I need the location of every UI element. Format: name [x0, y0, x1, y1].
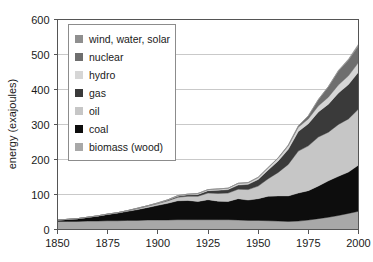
legend-item[interactable]: wind, water, solar	[75, 30, 171, 48]
x-tick-label: 1975	[296, 237, 320, 249]
x-tick-label: 1925	[196, 237, 220, 249]
legend-label-oil: oil	[89, 106, 100, 117]
legend-swatch-nuclear	[75, 53, 83, 61]
chart-legend: wind, water, solar nuclear hydro gas oil…	[68, 24, 176, 161]
legend-swatch-biomass	[75, 143, 83, 151]
y-tick-label: 500	[31, 49, 49, 61]
legend-item[interactable]: nuclear	[75, 48, 171, 66]
x-tick-label: 1900	[146, 237, 170, 249]
legend-item[interactable]: hydro	[75, 66, 171, 84]
legend-swatch-gas	[75, 89, 83, 97]
legend-label-biomass: biomass (wood)	[89, 142, 163, 153]
legend-label-nuclear: nuclear	[89, 52, 123, 63]
x-axis-ticks	[58, 230, 359, 234]
legend-label-hydro: hydro	[89, 70, 115, 81]
legend-swatch-wind-water-solar	[75, 35, 83, 43]
legend-label-gas: gas	[89, 88, 106, 99]
y-tick-label: 0	[43, 224, 49, 236]
chart-figure: 0100200300400500600 18501875190019251950…	[0, 0, 373, 262]
energy-stacked-area-chart: 0100200300400500600 18501875190019251950…	[0, 0, 373, 262]
legend-swatch-coal	[75, 125, 83, 133]
x-tick-label: 1875	[95, 237, 119, 249]
x-tick-label: 2000	[346, 237, 370, 249]
legend-item[interactable]: gas	[75, 84, 171, 102]
legend-swatch-oil	[75, 107, 83, 115]
y-tick-label: 200	[31, 154, 49, 166]
legend-item[interactable]: oil	[75, 102, 171, 120]
x-axis-tick-labels: 1850187519001925195019752000	[45, 237, 370, 249]
y-tick-label: 400	[31, 84, 49, 96]
x-tick-label: 1850	[45, 237, 69, 249]
y-tick-label: 600	[31, 14, 49, 26]
legend-swatch-hydro	[75, 71, 83, 79]
y-axis-title: energy (exajoules)	[6, 79, 18, 170]
legend-label-coal: coal	[89, 124, 108, 135]
y-tick-label: 300	[31, 119, 49, 131]
y-tick-label: 100	[31, 189, 49, 201]
y-axis-ticks	[54, 20, 58, 230]
legend-item[interactable]: biomass (wood)	[75, 138, 171, 156]
y-axis-tick-labels: 0100200300400500600	[31, 14, 49, 236]
legend-item[interactable]: coal	[75, 120, 171, 138]
legend-label-wind-water-solar: wind, water, solar	[89, 34, 170, 45]
x-tick-label: 1950	[246, 237, 270, 249]
